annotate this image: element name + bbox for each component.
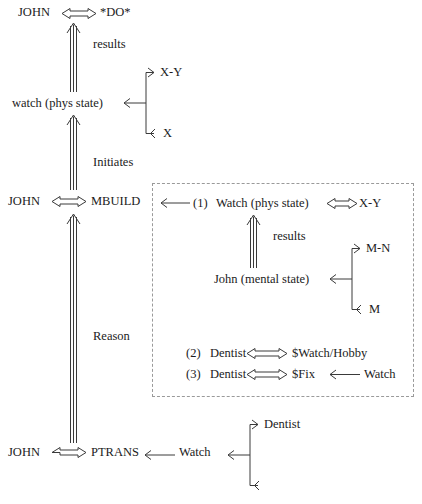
label-branch-xy: X-Y [160,65,182,79]
label-john-mbuild-actor: JOHN [8,194,40,208]
label-results-top: results [93,37,126,51]
label-watch-phys-state: watch (phys state) [12,96,103,110]
double-headed-arrow-mbuild [52,197,86,207]
triple-up-arrow-results-top [67,23,80,92]
inner-label-line2-number: (2) [186,346,201,360]
inner-label-line2-value: $Watch/Hobby [292,346,367,360]
inner-label-branch-mn: M-N [366,241,390,255]
inner-label-line3-actor: Dentist [210,367,246,381]
triple-up-arrow-reason [67,214,80,443]
state-brace-ptrans [228,420,259,490]
label-john-do-actor: JOHN [18,5,50,19]
state-brace-watch [124,68,155,138]
diagram-canvas: JOHN *DO* results watch (phys state) X-Y… [0,0,422,504]
inner-label-branch-m: M [369,302,380,316]
double-headed-arrow-ptrans [52,448,86,458]
label-branch-dentist: Dentist [264,417,300,431]
inner-label-results: results [273,229,306,243]
double-headed-arrow-do [62,9,96,19]
label-reason: Reason [93,329,130,343]
inner-label-line2-actor: Dentist [210,346,246,360]
label-ptrans-object-watch: Watch [179,445,211,459]
inner-label-line3-value: $Fix [292,367,315,381]
label-do-action: *DO* [100,5,131,19]
inner-label-line3-source: Watch [364,367,396,381]
label-initiates: Initiates [93,155,133,169]
inner-label-john-mental-state: John (mental state) [214,272,309,286]
inner-label-line1-number: (1) [193,196,208,210]
triple-up-arrow-initiates [67,115,80,190]
label-ptrans-action: PTRANS [91,445,139,459]
label-mbuild-action: MBUILD [91,194,140,208]
inner-label-line1-actor: Watch (phys state) [216,196,309,210]
inner-label-line1-value: X-Y [359,196,381,210]
label-john-ptrans-actor: JOHN [8,445,40,459]
left-arrow-ptrans-watch [145,451,175,460]
label-branch-x: X [163,126,172,140]
inner-label-line3-number: (3) [186,367,201,381]
inner-inference-box [152,183,414,397]
